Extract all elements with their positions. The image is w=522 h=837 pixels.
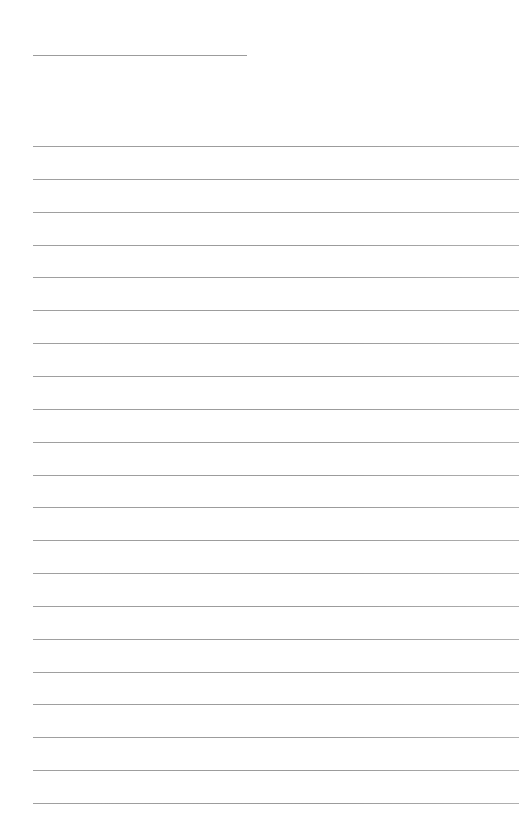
lined-paper-page bbox=[0, 0, 522, 837]
ruled-line bbox=[33, 376, 519, 377]
ruled-line bbox=[33, 540, 519, 541]
ruled-line bbox=[33, 803, 519, 804]
ruled-line bbox=[33, 475, 519, 476]
ruled-line bbox=[33, 179, 519, 180]
ruled-line bbox=[33, 672, 519, 673]
ruled-line bbox=[33, 770, 519, 771]
ruled-line bbox=[33, 573, 519, 574]
ruled-line bbox=[33, 442, 519, 443]
ruled-line bbox=[33, 277, 519, 278]
ruled-line bbox=[33, 212, 519, 213]
ruled-line bbox=[33, 245, 519, 246]
ruled-line bbox=[33, 409, 519, 410]
ruled-line bbox=[33, 343, 519, 344]
ruled-line bbox=[33, 639, 519, 640]
ruled-line bbox=[33, 704, 519, 705]
ruled-line bbox=[33, 310, 519, 311]
title-line bbox=[33, 55, 247, 56]
ruled-line bbox=[33, 507, 519, 508]
ruled-line bbox=[33, 737, 519, 738]
ruled-line bbox=[33, 146, 519, 147]
ruled-line bbox=[33, 606, 519, 607]
